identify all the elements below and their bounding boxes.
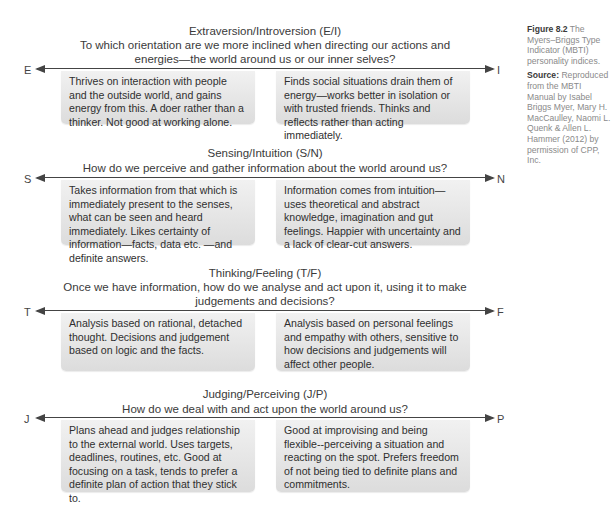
description-box-right: Good at improvising and being flexible--…: [276, 420, 470, 492]
caption-title-paragraph: Figure 8.2 The Myers–Briggs Type Indicat…: [527, 24, 611, 66]
caption-source-paragraph: Source: Reproduced from the MBTI Manual …: [527, 70, 611, 165]
description-box-left: Plans ahead and judges relationship to t…: [61, 420, 255, 492]
figure-number: Figure 8.2: [527, 24, 568, 34]
source-label: Source:: [527, 70, 559, 80]
dimension-question-line-1: How do we deal with and act upon the wor…: [0, 402, 530, 416]
dimension-title: Judging/Perceiving (J/P): [0, 387, 530, 401]
source-text: Reproduced from the MBTI Manual by Isabe…: [527, 70, 610, 165]
figure-caption: Figure 8.2 The Myers–Briggs Type Indicat…: [527, 24, 611, 170]
double-arrow-axis: [37, 417, 493, 418]
arrowhead-left-icon: [35, 414, 45, 422]
arrowhead-right-icon: [485, 414, 495, 422]
pole-label-right: P: [497, 413, 504, 425]
pole-label-left: J: [24, 413, 30, 425]
dimension-judging-perceiving: Judging/Perceiving (J/P) How do we deal …: [0, 0, 520, 500]
